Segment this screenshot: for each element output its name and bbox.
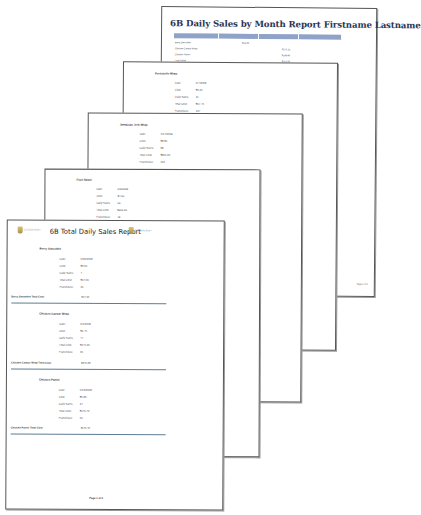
group-total-value: $14.00 [81,296,89,299]
item-name: Chicken Caesar Wrap [39,312,69,316]
month-row-name: Chicken Panini [175,53,190,55]
label-date: Date: [175,82,181,85]
label-daily-sales: Daily Sales: [59,403,73,406]
cup-icon [18,226,23,233]
month-row-name: Chicken Caesar Wrap [175,47,197,49]
value-franchise: 56 [80,417,83,420]
value-cost: $9.90 [161,140,168,143]
label-total-cost: Total Cost: [59,279,72,282]
value-cost: $4.50 [117,195,124,198]
header-cell [219,34,259,39]
value-total-cost: $270.25 [80,344,90,347]
page-number: Page 1 of 3 [89,497,103,500]
logo-text: Grill Daily Bistro [24,228,41,231]
label-cost: Cost: [96,195,102,198]
label-franchise: Franchise#: [59,286,73,289]
label-date: Date: [60,258,66,261]
label-date: Date: [59,323,65,326]
value-total-cost: $961.00 [161,154,171,157]
label-franchise: Franchise#: [59,351,73,354]
value-total-cost: $140.40 [80,410,90,413]
group-total-value: $270.25 [81,362,90,365]
value-daily-sales: 98 [161,147,164,150]
label-daily-sales: Daily Sales: [140,147,154,150]
month-row-name: Berry Smoothie [175,41,191,43]
item-name: Chicken Panini [39,378,60,382]
month-report-header-row [174,33,342,39]
value-total-cost: $57.75 [196,103,204,106]
group-total-label: Chicken Panini Total Cost: [11,426,44,429]
month-row-value: $14.00 [242,42,249,44]
label-date: Date: [59,389,65,392]
value-daily-sales: 47 [80,337,83,340]
label-total-cost: Total Cost: [59,344,72,347]
value-date: 6/13/2009 [80,389,92,392]
month-report-title: 6B Daily Sales by Month Report Firstname… [170,18,421,30]
value-franchise: 31 [80,286,83,289]
value-cost: $5.25 [196,89,203,92]
label-daily-sales: Daily Sales: [175,96,189,99]
group-separator [11,433,166,435]
label-cost: Cost: [175,89,181,92]
value-cost: $5.85 [80,396,87,399]
page-number: Page 1 of 1 [357,283,368,285]
label-cost: Cost: [59,396,65,399]
label-cost: Cost: [140,140,146,143]
cup-icon [129,227,134,234]
front-report-page: Grill Daily Bistro 6B Total Daily Sales … [5,219,225,510]
label-date: Date: [96,188,102,191]
label-franchise: Franchise#: [139,161,153,164]
value-date: 5/30/2009 [81,258,93,261]
month-row-value: $149.40 [282,54,290,56]
logo-left: Grill Daily Bistro [18,225,44,233]
group-separator [11,368,166,370]
value-date: 6/2/2009 [117,188,127,191]
item-name: Fruit Salad [76,178,91,182]
value-daily-sales: 56 [117,202,120,205]
report-title: 6B Total Daily Sales Report [50,228,141,236]
value-franchise: 36 [80,351,83,354]
value-date: 5/17/2009 [161,133,173,136]
value-total-cost: $14.00 [80,279,88,282]
value-franchise: 113 [160,161,164,164]
value-daily-sales: 24 [80,403,83,406]
label-franchise: Franchise#: [59,417,73,420]
value-date: 6/7/2009 [196,82,206,85]
value-cost: $5.75 [80,330,87,333]
group-total-value: $140.40 [81,427,90,430]
label-date: Date: [140,133,146,136]
item-name: Jamaican Jerk Wrap [120,123,148,127]
item-name: Berry Smoothie [40,247,62,251]
label-total-cost: Total Cost: [175,103,188,106]
label-daily-sales: Daily Sales: [59,337,73,340]
logo-right: Grill Daily Bistro [129,226,155,234]
value-cost: $3.50 [81,265,88,268]
item-name: Portobello Wrap [155,71,177,75]
month-row-value: $270.25 [282,48,290,50]
value-franchise: 49 [117,216,120,219]
header-cell [174,33,219,38]
label-daily-sales: Daily Sales: [96,202,110,205]
value-total-cost: $252.00 [117,209,127,212]
group-separator [11,302,166,304]
value-daily-sales: 4 [80,272,82,275]
group-total-label: Berry Smoothie Total Cost: [11,295,44,298]
header-cell [259,34,299,39]
header-cell [299,34,342,39]
value-date: 6/1/2009 [80,323,90,326]
value-daily-sales: 11 [196,96,199,99]
logo-text: Grill Daily Bistro [135,229,152,232]
label-cost: Cost: [60,265,66,268]
label-daily-sales: Daily Sales: [59,272,73,275]
group-total-label: Chicken Caesar Wrap Total Cost: [11,361,52,364]
label-total-cost: Total Cost: [96,209,109,212]
label-total-cost: Total Cost: [59,410,72,413]
label-total-cost: Total Cost: [140,154,153,157]
label-franchise: Franchise#: [96,216,110,219]
label-cost: Cost: [59,330,65,333]
